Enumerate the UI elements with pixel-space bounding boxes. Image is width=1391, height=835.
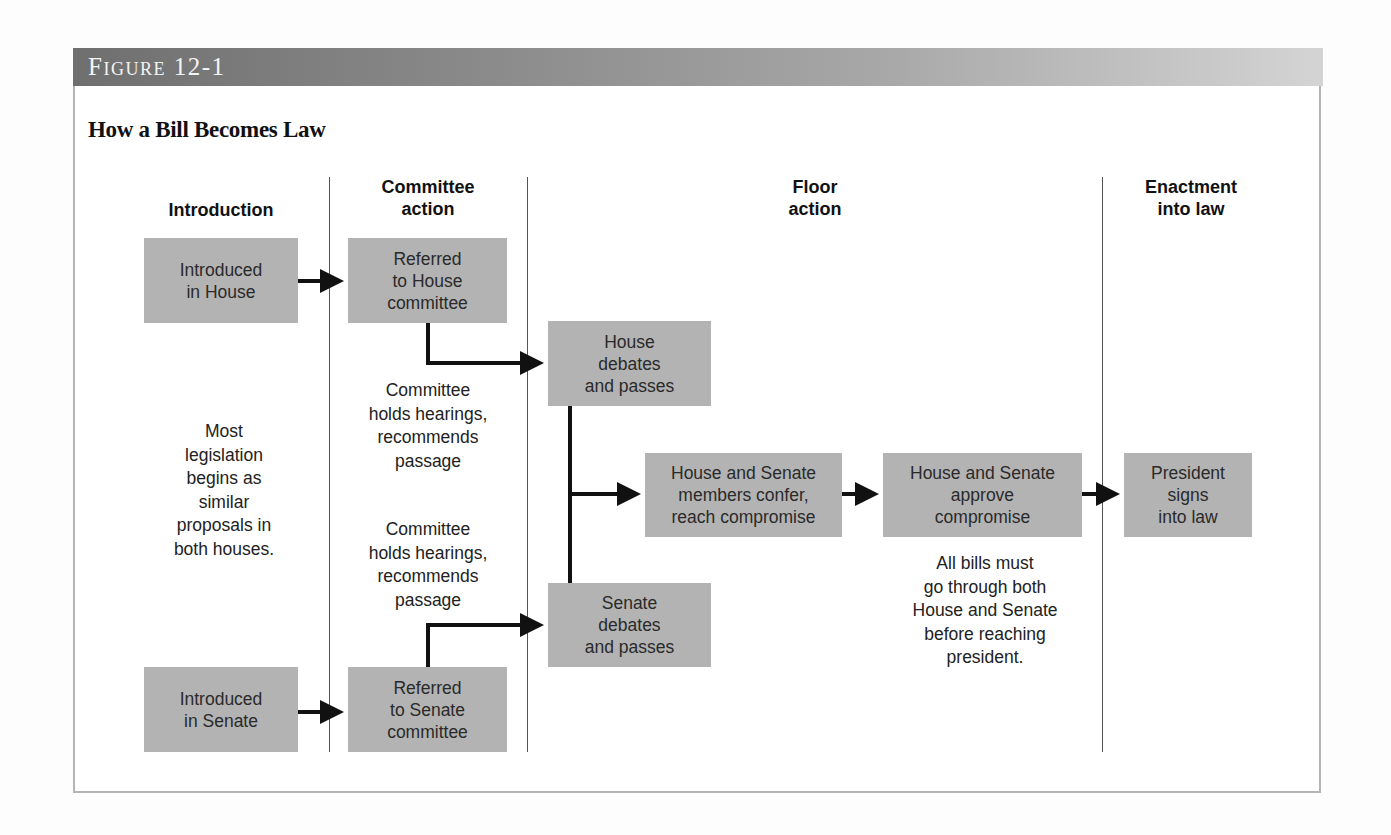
box-approve-compromise: House and Senate approve compromise (883, 453, 1082, 537)
box-introduced-in-senate: Introduced in Senate (144, 667, 298, 752)
column-divider (329, 177, 330, 752)
note-all-bills: All bills must go through both House and… (913, 552, 1058, 670)
box-house-debates-and-passes: House debates and passes (548, 321, 711, 406)
column-divider (527, 177, 528, 752)
column-heading-committee: Committee action (381, 176, 474, 220)
column-heading-enactment: Enactment into law (1145, 176, 1237, 220)
box-referred-to-house-committee: Referred to House committee (348, 238, 507, 323)
box-president-signs: President signs into law (1124, 453, 1252, 537)
column-divider (1102, 177, 1103, 752)
note-committee-house: Committee holds hearings, recommends pas… (369, 379, 488, 473)
note-committee-senate: Committee holds hearings, recommends pas… (369, 518, 488, 612)
figure-title: How a Bill Becomes Law (88, 117, 325, 143)
column-heading-floor: Floor action (788, 176, 841, 220)
figure-header-band (73, 48, 1323, 86)
box-referred-to-senate-committee: Referred to Senate committee (348, 667, 507, 752)
note-most-legislation: Most legislation begins as similar propo… (174, 420, 274, 561)
box-members-confer: House and Senate members confer, reach c… (645, 453, 842, 537)
box-introduced-in-house: Introduced in House (144, 238, 298, 323)
box-senate-debates-and-passes: Senate debates and passes (548, 583, 711, 667)
figure-label: Figure 12-1 (88, 50, 225, 84)
column-heading-introduction: Introduction (169, 199, 274, 221)
